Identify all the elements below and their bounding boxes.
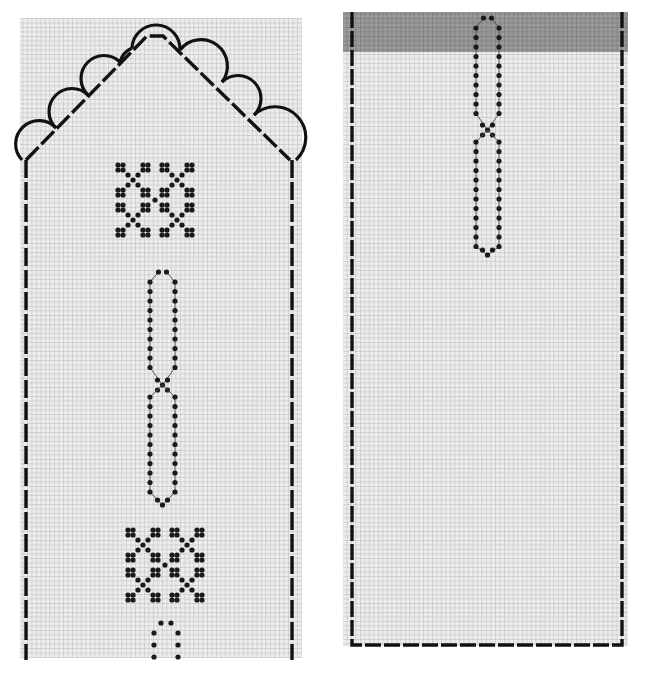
stitch-dot: [496, 101, 501, 106]
stitch-dot: [473, 25, 478, 30]
stitch-dot: [150, 557, 155, 562]
stitch-dot: [189, 577, 194, 582]
stitch-dot: [496, 63, 501, 68]
stitch-dot: [147, 279, 152, 284]
stitch-dot: [159, 232, 164, 237]
stitch-dot: [164, 207, 169, 212]
stitch-dot: [115, 162, 120, 167]
stitch-dot: [169, 552, 174, 557]
stitch-dot: [172, 317, 177, 322]
stitch-dot: [120, 192, 125, 197]
stitch-dot: [172, 404, 177, 409]
stitch-dot: [159, 167, 164, 172]
stitch-dot: [147, 308, 152, 313]
stitch-dot: [174, 552, 179, 557]
stitch-dot: [175, 642, 180, 647]
stitch-dot: [164, 162, 169, 167]
stitch-dot: [168, 620, 173, 625]
stitch-dot: [172, 442, 177, 447]
stitch-dot: [496, 244, 501, 249]
stitch-dot: [135, 222, 140, 227]
stitch-dot: [174, 592, 179, 597]
stitch-dot: [159, 207, 164, 212]
stitch-dot: [140, 582, 145, 587]
stitch-dot: [179, 537, 184, 542]
stitch-dot: [156, 269, 161, 274]
stitch-dot: [189, 587, 194, 592]
stitch-dot: [194, 527, 199, 532]
stitch-dot: [199, 532, 204, 537]
stitch-dot: [473, 92, 478, 97]
stitch-dot: [189, 547, 194, 552]
stitch-dot: [473, 44, 478, 49]
stitch-dot: [147, 442, 152, 447]
stitch-dot: [184, 207, 189, 212]
stitch-dot: [169, 212, 174, 217]
stitch-dot: [189, 202, 194, 207]
stitch-dot: [199, 557, 204, 562]
stitch-dot: [125, 557, 130, 562]
stitch-dot: [159, 202, 164, 207]
stitch-dot: [125, 182, 130, 187]
stitch-dot: [194, 592, 199, 597]
stitch-dot: [130, 572, 135, 577]
stitch-dot: [125, 572, 130, 577]
stitch-dot: [473, 139, 478, 144]
stitch-dot: [189, 207, 194, 212]
stitch-dot: [120, 167, 125, 172]
stitch-dot: [125, 222, 130, 227]
stitch-dot: [172, 461, 177, 466]
stitch-dot: [473, 196, 478, 201]
stitch-dot: [165, 497, 170, 502]
stitch-dot: [496, 35, 501, 40]
stitch-dot: [145, 202, 150, 207]
stitch-dot: [194, 532, 199, 537]
stitch-dot: [147, 365, 152, 370]
stitch-dot: [174, 527, 179, 532]
stitch-dot: [172, 327, 177, 332]
stitch-dot: [147, 404, 152, 409]
stitch-dot: [115, 207, 120, 212]
stitch-dot: [496, 187, 501, 192]
stitch-dot: [496, 177, 501, 182]
stitch-dot: [165, 377, 170, 382]
stitch-dot: [151, 654, 156, 659]
stitch-dot: [152, 197, 157, 202]
stitch-dot: [169, 597, 174, 602]
stitch-dot: [172, 470, 177, 475]
stitch-dot: [473, 54, 478, 59]
stitch-dot: [496, 168, 501, 173]
stitch-dot: [162, 562, 167, 567]
stitch-dot: [184, 187, 189, 192]
stitch-dot: [155, 592, 160, 597]
stitch-dot: [147, 480, 152, 485]
stitch-dot: [130, 217, 135, 222]
stitch-dot: [169, 532, 174, 537]
stitch-dot: [473, 225, 478, 230]
stitch-dot: [140, 187, 145, 192]
stitch-dot: [164, 227, 169, 232]
stitch-dot: [473, 187, 478, 192]
stitch-dot: [172, 298, 177, 303]
stitch-dot: [150, 527, 155, 532]
stitch-dot: [174, 177, 179, 182]
stitch-dot: [159, 162, 164, 167]
stitch-dot: [490, 122, 495, 127]
stitch-dot: [147, 461, 152, 466]
stitch-dot: [147, 489, 152, 494]
stitch-dot: [140, 232, 145, 237]
stitch-dot: [179, 577, 184, 582]
stitch-dot: [189, 192, 194, 197]
stitch-dot: [147, 289, 152, 294]
stitch-dot: [115, 202, 120, 207]
stitch-dot: [194, 567, 199, 572]
stitch-dot: [189, 162, 194, 167]
stitch-dot: [496, 92, 501, 97]
stitch-dot: [155, 497, 160, 502]
stitch-dot: [496, 44, 501, 49]
stitch-dot: [179, 222, 184, 227]
stitch-dot: [199, 592, 204, 597]
stitch-dot: [135, 587, 140, 592]
stitch-dot: [140, 192, 145, 197]
stitch-dot: [189, 187, 194, 192]
